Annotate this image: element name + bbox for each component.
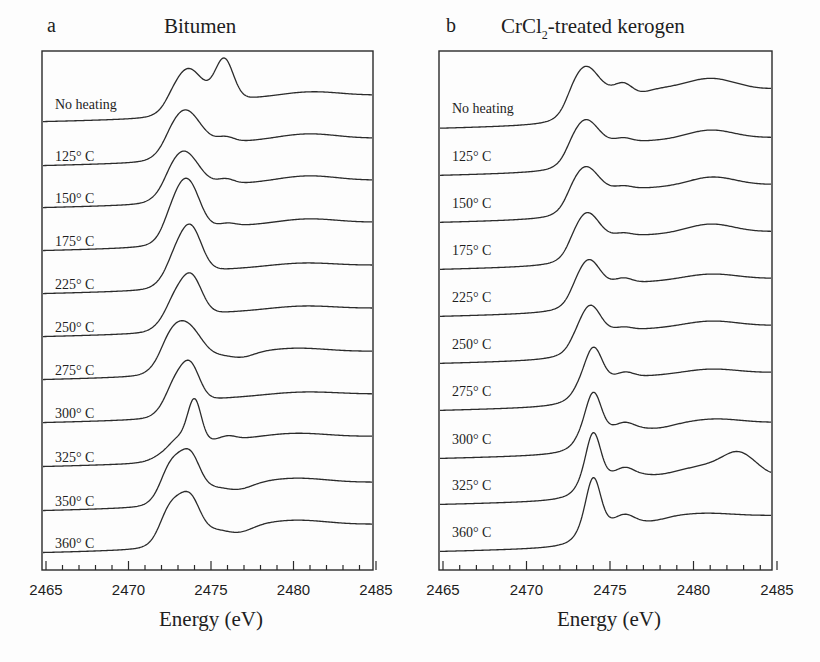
x-tick-label: 2465 [426, 581, 459, 598]
x-tick-label: 2475 [593, 581, 626, 598]
curve-label: 250° C [55, 320, 94, 336]
x-tick-label: 2480 [677, 581, 710, 598]
x-tick-label: 2485 [359, 581, 392, 598]
spectrum-line [440, 66, 771, 128]
curve-label: No heating [55, 97, 117, 113]
curve-label: 225° C [452, 290, 491, 306]
panel-b-title-text: CrCl [501, 14, 542, 38]
curve-label: 360° C [452, 525, 491, 541]
x-tick-label: 2485 [760, 581, 793, 598]
panel-a-frame [42, 51, 373, 570]
panel-a-title-text: Bitumen [164, 14, 236, 38]
curve-label: 275° C [452, 384, 491, 400]
x-tick-label: 2465 [29, 581, 62, 598]
x-tick-label: 2470 [112, 581, 145, 598]
spectrum-line [440, 167, 771, 223]
x-tick-label: 2480 [277, 581, 310, 598]
spectrum-line [440, 305, 771, 363]
curve-label: 125° C [55, 149, 94, 165]
curve-label: 250° C [452, 337, 491, 353]
curve-label: 125° C [452, 149, 491, 165]
panel-b-title-suffix: -treated kerogen [548, 14, 685, 38]
curve-label: 275° C [55, 363, 94, 379]
panel-a-title: Bitumen [164, 14, 236, 39]
x-tick-label: 2470 [510, 581, 543, 598]
panel-a-letter: a [47, 14, 56, 37]
figure: a Bitumen b CrCl2-treated kerogen No hea… [0, 0, 820, 662]
curve-label: 150° C [452, 196, 491, 212]
spectrum-line [440, 347, 771, 410]
curve-label: 300° C [55, 406, 94, 422]
plot-canvas [0, 0, 820, 662]
panel-b-letter: b [446, 14, 456, 37]
curve-label: 350° C [55, 494, 94, 510]
curve-label: 325° C [55, 450, 94, 466]
curve-label: 175° C [452, 243, 491, 259]
panel-b-title: CrCl2-treated kerogen [501, 14, 685, 43]
panel-a-plot [42, 51, 376, 570]
curve-label: 150° C [55, 191, 94, 207]
spectrum-line [440, 392, 771, 458]
x-tick-label: 2475 [194, 581, 227, 598]
curve-label: 300° C [452, 432, 491, 448]
curve-label: 360° C [55, 536, 94, 552]
curve-label: 225° C [55, 277, 94, 293]
curve-label: No heating [452, 101, 514, 117]
curve-label: 325° C [452, 478, 491, 494]
curve-label: 175° C [55, 234, 94, 250]
spectrum-line [440, 120, 771, 176]
panel-b-x-axis-title: Energy (eV) [557, 607, 661, 632]
panel-a-x-axis-title: Energy (eV) [159, 607, 263, 632]
